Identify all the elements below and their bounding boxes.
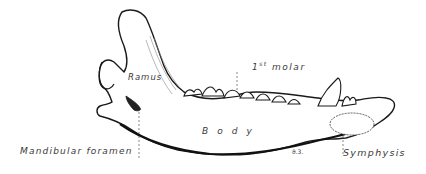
label-symphysis: Symphysis: [343, 147, 406, 158]
label-mandibular-foramen: Mandibular foramen: [20, 146, 133, 156]
symphysis-area: [330, 113, 374, 135]
label-body: Body: [202, 126, 261, 136]
molar-suffix: st: [259, 60, 267, 67]
artist-signature: ϑ.3.: [292, 148, 303, 155]
label-ramus: Ramus: [128, 72, 162, 82]
label-first-molar: 1st molar: [252, 60, 306, 72]
mandible-illustration: Ramus 1st molar Body Mandibular foramen …: [0, 0, 426, 174]
molar-word: molar: [272, 62, 306, 72]
